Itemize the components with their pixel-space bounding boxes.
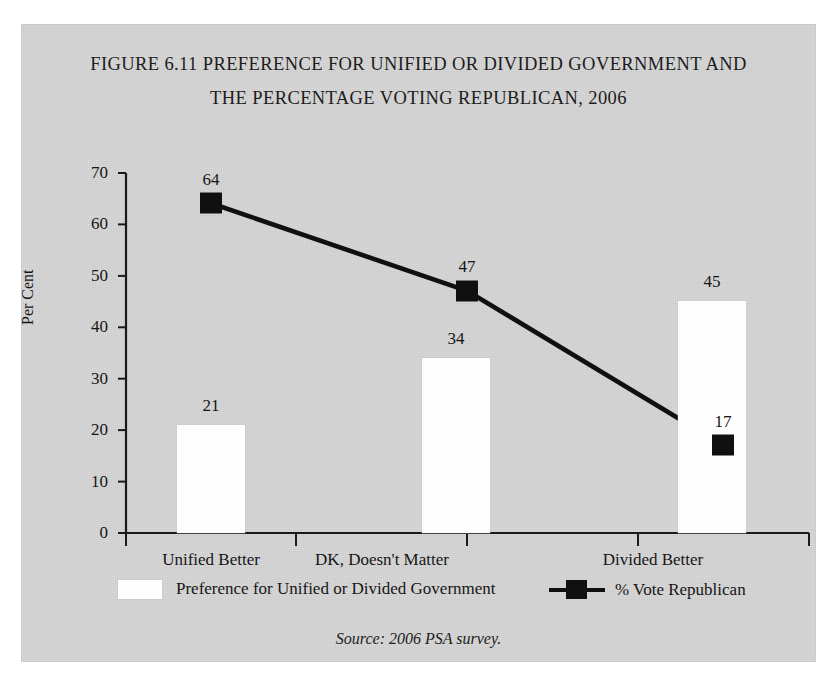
point-value-dk-doesnt-matter: 47	[427, 257, 507, 277]
bar-unified-better	[177, 425, 245, 533]
y-axis-tick-label-50: 50	[66, 266, 108, 286]
y-axis-tick-label-70: 70	[66, 163, 108, 183]
y-axis-tick-label-0: 0	[66, 523, 108, 543]
legend-bar-swatch-icon	[118, 580, 162, 599]
legend-label-vote-republican: % Vote Republican	[615, 580, 746, 600]
x-axis-tick-label-unified-better: Unified Better	[131, 550, 291, 570]
y-axis-title: Per Cent	[19, 269, 37, 325]
chart-legend: Preference for Unified or Divided Govern…	[22, 573, 815, 613]
data-point-marker-dk-doesnt-matter	[456, 280, 478, 301]
bar-dk-doesnt-matter	[422, 358, 490, 533]
bar-value-divided-better: 45	[672, 272, 752, 292]
legend-entry-preference: Preference for Unified or Divided Govern…	[118, 579, 496, 599]
y-axis-tick-label-20: 20	[66, 420, 108, 440]
figure-panel: FIGURE 6.11 PREFERENCE FOR UNIFIED OR DI…	[22, 25, 815, 661]
point-value-divided-better: 17	[683, 412, 763, 432]
y-axis-tick-label-10: 10	[66, 472, 108, 492]
y-axis-tick-label-30: 30	[66, 369, 108, 389]
chart-plot-area: Per Cent 70 60 50 40 30 20 10 0 21 34 45…	[22, 25, 815, 661]
y-axis-tick-label-40: 40	[66, 317, 108, 337]
point-value-unified-better: 64	[171, 170, 251, 190]
legend-line-marker-icon	[549, 579, 605, 600]
legend-label-preference: Preference for Unified or Divided Govern…	[176, 579, 496, 599]
bar-value-dk-doesnt-matter: 34	[416, 329, 496, 349]
data-point-marker-unified-better	[200, 193, 222, 214]
data-point-marker-divided-better	[712, 435, 734, 456]
bar-value-unified-better: 21	[171, 396, 251, 416]
x-axis-tick-label-divided-better: Divided Better	[573, 550, 733, 570]
legend-entry-vote-republican: % Vote Republican	[549, 579, 746, 600]
x-axis-tick-label-dk-doesnt-matter: DK, Doesn't Matter	[302, 550, 462, 570]
legend-square-marker-icon	[566, 580, 587, 599]
y-axis-tick-label-60: 60	[66, 214, 108, 234]
source-note: Source: 2006 PSA survey.	[22, 630, 815, 648]
